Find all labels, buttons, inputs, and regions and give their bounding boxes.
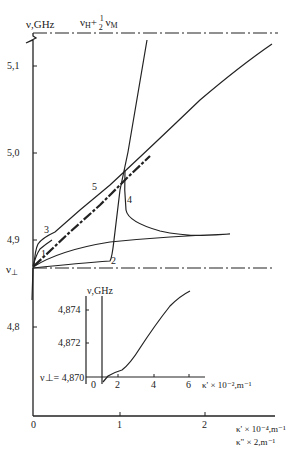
inset-xtick-0: 0 — [91, 379, 96, 390]
xtick-0: 0 — [31, 419, 36, 430]
curve-label-1: 1 — [41, 248, 46, 259]
inset-ytick-4874: 4,874 — [58, 304, 81, 315]
inset-ytick-4872: 4,872 — [58, 337, 81, 348]
curve-label-5: 5 — [92, 181, 97, 192]
ytick-5-0: 5,0 — [7, 147, 20, 158]
ytick-5-1: 5,1 — [7, 60, 20, 71]
main-plot — [26, 33, 278, 416]
inset-xtick-4: 4 — [151, 379, 156, 390]
xtick-2: 2 — [202, 419, 207, 430]
x-axis-label-line2: κ" × 2,m⁻¹ — [236, 437, 276, 447]
curve-5 — [34, 156, 150, 266]
x-axis-label-line1: κ' × 10⁻⁴,m⁻¹ — [236, 424, 286, 434]
inset-labels: ν,GHz 4,874 4,872 ν⊥= 4,870 0 2 4 6 κ' ×… — [40, 285, 252, 390]
inset-y-label: ν,GHz — [87, 285, 113, 296]
y-axis-label: ν,GHz — [26, 18, 55, 30]
nu-perp-label: ν⊥ — [6, 263, 18, 277]
y-axis — [26, 33, 36, 416]
inset-xtick-2: 2 — [115, 379, 120, 390]
curve-label-2: 2 — [111, 255, 116, 266]
inset-x-label: κ' × 10⁻²,m⁻¹ — [202, 380, 252, 390]
chart: ν,GHz νH+ 12 νM 5,1 5,0 4,9 4,8 ν⊥ 0 1 2… — [0, 0, 295, 454]
inset-plot — [86, 291, 205, 384]
inset-origin-label: ν⊥= 4,870 — [40, 372, 84, 383]
xtick-1: 1 — [117, 419, 122, 430]
ytick-4-9: 4,9 — [7, 234, 20, 245]
ytick-4-8: 4,8 — [7, 321, 20, 332]
curve-4 — [33, 170, 230, 267]
curve-label-4: 4 — [127, 194, 132, 205]
upper-reference-label: νH+ 12 νM — [80, 14, 118, 32]
inset-xtick-6: 6 — [186, 379, 191, 390]
curve-label-3: 3 — [44, 224, 49, 235]
inset-curve — [103, 291, 190, 382]
